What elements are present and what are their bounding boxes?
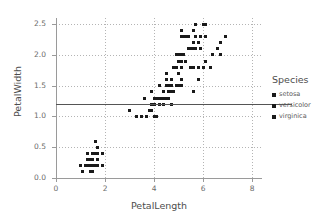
legend-swatch-icon [272, 104, 276, 108]
x-axis-tick-label: 2 [93, 185, 117, 193]
data-point [216, 47, 219, 50]
data-point [167, 90, 170, 93]
data-point [199, 35, 202, 38]
x-axis-line [56, 178, 262, 179]
legend: Species setosaversicolorvirginica [272, 74, 319, 123]
data-point [219, 41, 222, 44]
y-axis-tick [52, 24, 57, 25]
data-point [189, 66, 192, 69]
data-point [135, 115, 138, 118]
data-point [89, 164, 92, 167]
data-point [224, 35, 227, 38]
data-point [219, 53, 222, 56]
data-point [101, 164, 104, 167]
x-axis-tick [56, 178, 57, 182]
chart-root: 0.00.51.01.52.02.502468 PetalLength Peta… [0, 0, 319, 221]
data-point [150, 90, 153, 93]
y-axis-tick-label: 2.5 [0, 20, 46, 28]
data-point [143, 97, 146, 100]
data-point [167, 97, 170, 100]
data-point [170, 78, 173, 81]
gridline-horizontal [56, 147, 262, 148]
data-point [192, 47, 195, 50]
legend-item[interactable]: versicolor [272, 101, 319, 110]
data-point [94, 140, 97, 143]
data-point [79, 164, 82, 167]
data-point [175, 53, 178, 56]
data-point [89, 170, 92, 173]
data-point [155, 115, 158, 118]
legend-items: setosaversicolorvirginica [272, 90, 319, 121]
y-axis-tick-label: 2.0 [0, 51, 46, 59]
data-point [155, 97, 158, 100]
data-point [101, 152, 104, 155]
legend-swatch-icon [272, 115, 276, 119]
gridline-vertical [203, 18, 204, 178]
x-axis-tick-label: 6 [191, 185, 215, 193]
data-point [128, 109, 131, 112]
data-point [165, 84, 168, 87]
data-point [211, 53, 214, 56]
legend-item-label: setosa [279, 91, 300, 98]
data-point [187, 35, 190, 38]
y-axis-title: PetalWidth [12, 37, 23, 147]
data-point [180, 66, 183, 69]
gridline-horizontal [56, 55, 262, 56]
data-point [96, 158, 99, 161]
data-point [199, 47, 202, 50]
legend-item[interactable]: setosa [272, 90, 319, 99]
data-point [177, 72, 180, 75]
x-axis-title: PetalLength [56, 200, 262, 211]
data-point [91, 152, 94, 155]
data-point [162, 90, 165, 93]
data-point [204, 23, 207, 26]
legend-title: Species [272, 74, 319, 85]
data-point [140, 115, 143, 118]
y-axis-tick [52, 86, 57, 87]
data-point [187, 47, 190, 50]
data-point [165, 78, 168, 81]
data-point [86, 152, 89, 155]
data-point [180, 78, 183, 81]
y-axis-tick-label: 0.0 [0, 174, 46, 182]
legend-item-label: versicolor [279, 102, 311, 109]
legend-item-label: virginica [279, 113, 307, 120]
data-point [177, 60, 180, 63]
x-axis-tick-label: 8 [240, 185, 264, 193]
data-point [158, 84, 161, 87]
legend-swatch-icon [272, 93, 276, 97]
data-point [148, 109, 151, 112]
gridline-vertical [252, 18, 253, 178]
data-point [180, 84, 183, 87]
y-axis-tick-label: 1.5 [0, 82, 46, 90]
data-point [192, 41, 195, 44]
data-point [194, 23, 197, 26]
data-point [145, 115, 148, 118]
data-point [170, 84, 173, 87]
gridline-horizontal [56, 116, 262, 117]
data-point [160, 97, 163, 100]
plot-area [56, 18, 262, 178]
data-point [192, 29, 195, 32]
data-point [182, 53, 185, 56]
data-point [194, 35, 197, 38]
y-axis-tick [52, 116, 57, 117]
x-axis-tick [154, 178, 155, 182]
data-point [204, 35, 207, 38]
x-axis-tick-label: 0 [44, 185, 68, 193]
legend-item[interactable]: virginica [272, 112, 319, 121]
y-axis-tick-label: 1.0 [0, 112, 46, 120]
data-point [172, 90, 175, 93]
data-point [165, 72, 168, 75]
data-point [202, 66, 205, 69]
data-point [184, 60, 187, 63]
y-axis-tick-label: 0.5 [0, 143, 46, 151]
data-point [192, 90, 195, 93]
x-axis-tick-label: 4 [142, 185, 166, 193]
y-axis-tick [52, 55, 57, 56]
data-point [172, 66, 175, 69]
data-point [209, 66, 212, 69]
data-point [182, 35, 185, 38]
data-point [81, 170, 84, 173]
data-point [204, 60, 207, 63]
